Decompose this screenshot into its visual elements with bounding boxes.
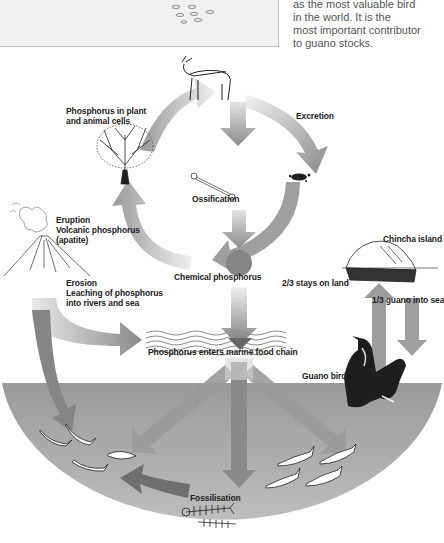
label-line: and animal cells: [66, 116, 146, 126]
label-erosion: Erosion Leaching of phosphorus into rive…: [66, 278, 163, 308]
tree-icon: [97, 124, 153, 184]
arrow-island-to-sea: [397, 298, 427, 356]
label-line: Volcanic phosphorus: [56, 225, 140, 235]
label-stays-on-land: 2/3 stays on land: [282, 278, 349, 288]
label-guano-bird: Guano bird: [302, 371, 346, 381]
label-line: Leaching of phosphorus: [66, 288, 163, 298]
label-excretion: Excretion: [296, 111, 334, 121]
label-guano-into-sea: 1/3 guano into sea: [372, 295, 444, 305]
label-chemical-phosphorus: Chemical phosphorus: [174, 272, 261, 282]
label-ossification: Ossification: [192, 194, 239, 204]
label-line: Phosphorus in plant: [66, 106, 146, 116]
label-plant-animal: Phosphorus in plant and animal cells: [66, 106, 146, 126]
label-line: (apatite): [56, 235, 140, 245]
label-fossilisation: Fossilisation: [190, 493, 241, 503]
arrow-excretion: [244, 95, 328, 174]
island-icon: [342, 241, 438, 282]
droppings-icon: [289, 174, 311, 183]
label-line: into rivers and sea: [66, 298, 163, 308]
label-chincha-island: Chincha island: [383, 234, 442, 244]
arrow-chemical-to-sea: [221, 287, 257, 346]
arrow-to-animal: [140, 78, 216, 152]
label-eruption: Eruption Volcanic phosphorus (apatite): [56, 215, 140, 245]
label-line: Erosion: [66, 278, 163, 288]
label-line: Eruption: [56, 215, 140, 225]
label-marine-food-chain: Phosphorus enters marine food chain: [148, 347, 298, 357]
